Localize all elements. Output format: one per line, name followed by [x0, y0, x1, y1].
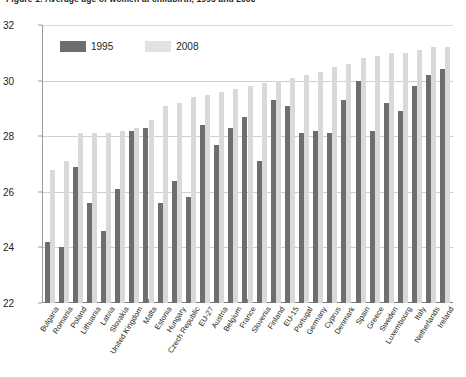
bar-group — [186, 25, 200, 303]
bar-2008 — [163, 106, 168, 303]
bar-1995 — [426, 75, 431, 303]
bar-2008 — [361, 58, 366, 303]
bar-2008 — [389, 53, 394, 303]
bar-1995 — [370, 131, 375, 303]
bar-group — [242, 25, 256, 303]
bar-group — [59, 25, 73, 303]
y-axis-tick-mark — [38, 191, 42, 192]
bar-2008 — [403, 53, 408, 303]
bar-group — [143, 25, 157, 303]
bar-1995 — [356, 81, 361, 303]
bar-2008 — [318, 72, 323, 303]
bar-group — [158, 25, 172, 303]
bar-1995 — [129, 131, 134, 303]
bar-1995 — [384, 103, 389, 303]
bar-2008 — [276, 81, 281, 303]
bar-1995 — [341, 100, 346, 303]
bar-2008 — [346, 64, 351, 303]
bar-group — [214, 25, 228, 303]
bar-1995 — [285, 106, 290, 303]
chart-legend: 1995 2008 — [60, 41, 225, 52]
bar-2008 — [50, 170, 55, 303]
bar-1995 — [45, 242, 50, 303]
bar-group — [87, 25, 101, 303]
bar-2008 — [417, 50, 422, 303]
bar-group — [398, 25, 412, 303]
y-axis-tick-mark — [38, 136, 42, 137]
bar-2008 — [149, 120, 154, 303]
bar-group — [384, 25, 398, 303]
bar-group — [101, 25, 115, 303]
y-axis-tick-mark — [38, 247, 42, 248]
bar-1995 — [158, 203, 163, 303]
bar-1995 — [313, 131, 318, 303]
bar-2008 — [431, 47, 436, 303]
bar-1995 — [59, 247, 64, 303]
bar-2008 — [332, 67, 337, 303]
bar-2008 — [177, 103, 182, 303]
y-axis-tick-mark — [38, 80, 42, 81]
bar-1995 — [186, 197, 191, 303]
bar-group — [341, 25, 355, 303]
bar-group — [426, 25, 440, 303]
bar-2008 — [304, 75, 309, 303]
legend-item-2008: 2008 — [145, 41, 198, 52]
legend-label-1995: 1995 — [91, 41, 113, 52]
bar-group — [327, 25, 341, 303]
bar-2008 — [134, 128, 139, 303]
bar-2008 — [290, 78, 295, 303]
bar-1995 — [172, 181, 177, 303]
bar-2008 — [191, 97, 196, 303]
x-axis-labels: BulgariaRomaniaPolandLithuaniaLatviaSlov… — [42, 305, 466, 377]
bar-1995 — [398, 111, 403, 303]
y-axis-tick-mark — [38, 303, 42, 304]
bar-2008 — [64, 161, 69, 303]
bar-1995 — [101, 231, 106, 303]
bar-group — [257, 25, 271, 303]
y-axis-tick-label: 24 — [0, 242, 14, 253]
bar-group — [115, 25, 129, 303]
y-axis-tick-label: 26 — [0, 186, 14, 197]
bar-1995 — [242, 117, 247, 303]
bar-2008 — [78, 133, 83, 303]
bar-series-container — [43, 25, 452, 303]
bar-2008 — [92, 133, 97, 303]
bar-1995 — [73, 167, 78, 303]
bar-1995 — [412, 86, 417, 303]
y-axis-tick-mark — [38, 25, 42, 26]
bar-group — [172, 25, 186, 303]
bar-2008 — [248, 86, 253, 303]
bar-2008 — [219, 92, 224, 303]
y-axis-tick-label: 28 — [0, 131, 14, 142]
legend-item-1995: 1995 — [60, 41, 113, 52]
bar-group — [200, 25, 214, 303]
bar-1995 — [257, 161, 262, 303]
bar-group — [299, 25, 313, 303]
bar-group — [73, 25, 87, 303]
bar-2008 — [106, 133, 111, 303]
bar-1995 — [143, 128, 148, 303]
bar-1995 — [115, 189, 120, 303]
bar-1995 — [200, 125, 205, 303]
bar-2008 — [205, 95, 210, 304]
bar-group — [370, 25, 384, 303]
bar-group — [285, 25, 299, 303]
bar-1995 — [440, 69, 445, 303]
bar-group — [440, 25, 454, 303]
bar-group — [271, 25, 285, 303]
bar-2008 — [262, 83, 267, 303]
bar-1995 — [271, 100, 276, 303]
legend-swatch-2008 — [145, 41, 171, 52]
bar-1995 — [228, 128, 233, 303]
legend-swatch-1995 — [60, 41, 86, 52]
bar-group — [313, 25, 327, 303]
bar-group — [356, 25, 370, 303]
legend-label-2008: 2008 — [176, 41, 198, 52]
y-axis-tick-label: 32 — [0, 20, 14, 31]
bar-2008 — [445, 47, 450, 303]
bar-chart: 222426283032 BulgariaRomaniaPolandLithua… — [0, 0, 466, 377]
gridline — [43, 25, 453, 26]
bar-group — [45, 25, 59, 303]
y-axis-tick-label: 30 — [0, 75, 14, 86]
bar-1995 — [327, 133, 332, 303]
